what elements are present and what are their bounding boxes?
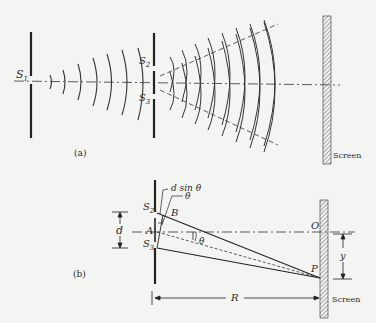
ray-s3-to-p [157,248,320,278]
label-theta-center: θ [199,236,205,246]
label-screen-a: Screen [333,151,361,160]
label-s1: S1 [16,68,28,83]
panel-b: d sin θ θ S2 S3 A B d θ O P y R Screen (… [73,180,360,318]
label-s3-a: S3 [139,92,151,106]
label-p: P [310,263,318,274]
label-a: A [145,225,153,236]
label-s2-b: S2 [143,201,155,215]
label-theta-small: θ [185,191,191,201]
label-r: R [230,292,239,303]
label-d: d [116,224,123,237]
angle-arc-center [195,232,196,241]
ray-a-to-p [157,232,320,278]
double-slit-figure: S1 S2 S3 Screen (a) [0,0,376,323]
ray-s2-to-p [157,213,320,278]
caption-b: (b) [73,269,86,279]
screen-b [320,200,328,318]
label-y: y [339,250,346,261]
optical-axis-a [14,81,340,85]
panel-a: S1 S2 S3 Screen (a) [14,16,361,164]
label-s3-b: S3 [143,238,155,252]
screen-a [323,16,331,164]
caption-a: (a) [74,148,86,158]
label-s2-a: S2 [139,55,151,69]
diagram-canvas: S1 S2 S3 Screen (a) [0,0,376,323]
incident-wavefronts [50,48,143,120]
label-o: O [311,220,319,231]
label-screen-b: Screen [332,295,360,304]
label-b: B [170,207,178,218]
